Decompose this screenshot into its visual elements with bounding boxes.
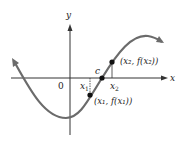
point-x1-coordinate-label: (x₁, f(x₁))	[94, 96, 132, 106]
x-axis-arrow-icon	[161, 76, 168, 81]
x-axis-label: x	[170, 73, 175, 83]
x2-label-sub: 2	[115, 85, 119, 92]
function-curve	[15, 36, 162, 118]
y-axis-label: y	[65, 10, 72, 20]
point-x2-coordinate-label: (x₂, f(x₂))	[120, 56, 158, 66]
x1-label-sub: 1	[85, 85, 89, 92]
point-x1	[87, 92, 92, 97]
point-c	[99, 75, 104, 80]
intermediate-value-diagram: y x 0 c x1 x2 (x₁, f(x₁)) (x₂, f(x₂))	[0, 0, 184, 145]
x2-label: x2	[110, 81, 119, 92]
c-label: c	[95, 66, 100, 76]
point-x2	[109, 59, 114, 64]
y-axis-arrow-icon	[68, 24, 73, 31]
x1-label: x1	[80, 81, 89, 92]
origin-label: 0	[58, 81, 64, 91]
